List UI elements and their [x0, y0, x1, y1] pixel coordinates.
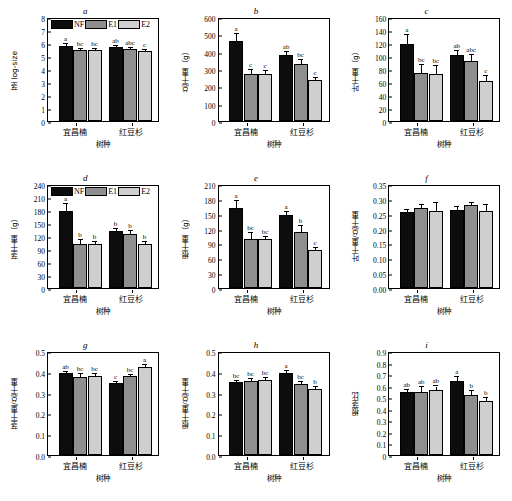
significance-letter: bc — [91, 40, 98, 48]
significance-letter: c — [114, 373, 117, 381]
y-tick-mark — [389, 260, 392, 261]
bar-nf-宜昌楠 — [59, 46, 73, 121]
legend-item-nf: NF — [51, 187, 84, 196]
y-tick-mark — [389, 245, 392, 246]
y-tick-label: 60 — [379, 80, 390, 89]
y-tick-mark — [389, 32, 392, 33]
y-tick-mark — [389, 84, 392, 85]
y-tick-mark — [389, 445, 392, 446]
error-bar-cap — [142, 49, 147, 50]
y-tick-mark — [389, 110, 392, 111]
bar-nf-红豆杉 — [279, 215, 293, 288]
error-bar-cap — [263, 70, 268, 71]
error-bar — [95, 242, 96, 244]
x-axis-label: 树种 — [388, 305, 500, 316]
y-tick-mark — [389, 364, 392, 365]
bar-e2-红豆杉 — [138, 367, 152, 455]
bar-e1-宜昌楠 — [414, 73, 428, 121]
error-bar — [236, 201, 237, 208]
y-tick-mark — [389, 422, 392, 423]
y-axis-label: 茎干重/总干重 — [9, 358, 20, 450]
significance-letter: ab — [283, 43, 290, 51]
significance-letter: b — [114, 220, 118, 228]
plot-area: 0306090120150180210240abbbbb — [47, 185, 159, 289]
error-bar — [421, 205, 422, 208]
significance-letter: a — [235, 25, 238, 33]
x-axis-label: 树种 — [218, 305, 330, 316]
bar-e2-宜昌楠 — [429, 74, 443, 121]
error-bar-cap — [248, 378, 253, 379]
y-tick-label: 0.7 — [377, 372, 389, 381]
error-bar — [457, 207, 458, 210]
error-bar — [436, 387, 437, 390]
legend-label: E1 — [108, 20, 117, 29]
y-tick-label: 30 — [208, 271, 219, 280]
y-tick-label: 90 — [38, 247, 49, 256]
y-tick-label: 4 — [41, 67, 48, 76]
error-bar-cap — [63, 203, 68, 204]
y-tick-mark — [219, 19, 222, 20]
x-category-label: 宜昌楠 — [234, 460, 258, 471]
significance-letter: a — [64, 195, 67, 203]
bar-nf-红豆杉 — [109, 47, 123, 121]
bar-e1-宜昌楠 — [244, 381, 258, 455]
error-bar-cap — [92, 48, 97, 49]
legend-swatch-nf — [51, 20, 73, 29]
y-tick-mark — [48, 353, 51, 354]
significance-letter: bc — [77, 365, 84, 373]
error-bar — [116, 229, 117, 232]
y-tick-mark — [219, 88, 222, 89]
error-bar — [251, 70, 252, 74]
y-tick-label: 60 — [208, 256, 219, 265]
legend-item-e2: E2 — [118, 20, 150, 29]
y-tick-label: 500 — [204, 32, 218, 41]
error-bar-cap — [433, 202, 438, 203]
bar-e2-宜昌楠 — [258, 380, 272, 455]
panel-letter: d — [0, 173, 171, 183]
bar-nf-红豆杉 — [450, 210, 464, 288]
y-tick-mark — [219, 200, 222, 201]
error-bar-cap — [469, 390, 474, 391]
plot-area: 020406080100120140160abcbcababcc — [388, 18, 500, 122]
x-axis-label: 树种 — [388, 472, 500, 483]
significance-letter: a — [235, 192, 238, 200]
legend-swatch-nf — [51, 187, 73, 196]
bar-nf-红豆杉 — [279, 55, 293, 121]
x-axis-label: 树种 — [47, 472, 159, 483]
y-tick-mark — [219, 245, 222, 246]
bar-nf-宜昌楠 — [400, 392, 414, 455]
y-tick-label: 0.1 — [377, 441, 389, 450]
error-bar — [66, 44, 67, 45]
significance-letter: ab — [403, 381, 410, 389]
y-tick-label: 0.20 — [373, 226, 389, 235]
error-bar-cap — [248, 232, 253, 233]
x-category-label: 红豆杉 — [460, 460, 484, 471]
bar-e2-宜昌楠 — [88, 50, 102, 121]
y-tick-label: 6 — [41, 41, 48, 50]
error-bar-cap — [284, 370, 289, 371]
legend-item-e1: E1 — [85, 187, 117, 196]
y-tick-mark — [389, 71, 392, 72]
error-bar-cap — [142, 241, 147, 242]
legend-label: E2 — [141, 20, 150, 29]
y-tick-mark — [389, 410, 392, 411]
significance-letter: bc — [297, 373, 304, 381]
error-bar-cap — [92, 241, 97, 242]
error-bar — [421, 387, 422, 392]
y-tick-mark — [389, 19, 392, 20]
bar-e1-宜昌楠 — [73, 244, 87, 288]
bar-e1-红豆杉 — [123, 376, 137, 455]
y-tick-label: 0.35 — [373, 182, 389, 191]
y-tick-mark — [219, 394, 222, 395]
significance-letter: a — [143, 356, 146, 364]
error-bar-cap — [419, 386, 424, 387]
y-tick-label: 210 — [204, 182, 218, 191]
y-tick-label: 0 — [41, 119, 48, 128]
error-bar-cap — [313, 386, 318, 387]
x-category-label: 红豆杉 — [460, 293, 484, 304]
legend-item-nf: NF — [51, 20, 84, 29]
bar-e1-宜昌楠 — [73, 50, 87, 122]
y-tick-label: 150 — [34, 221, 48, 230]
bar-nf-红豆杉 — [279, 373, 293, 455]
bar-e1-红豆杉 — [294, 64, 308, 121]
